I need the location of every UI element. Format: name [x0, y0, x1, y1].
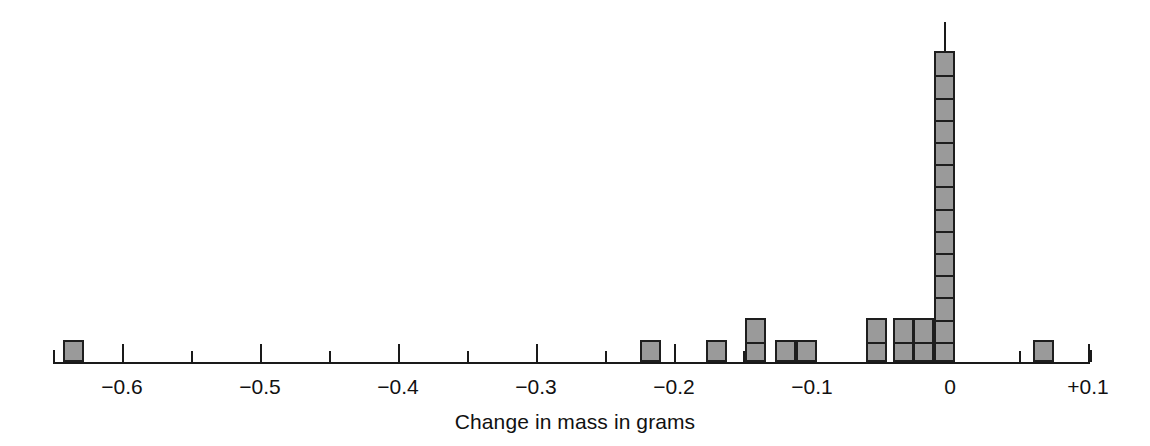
- x-tick-label: −0.6: [62, 376, 182, 397]
- histogram-bar-cell: [866, 342, 887, 364]
- histogram-bar-cell: [640, 342, 661, 364]
- x-axis-title: Change in mass in grams: [0, 410, 1150, 434]
- zero-guide-line: [944, 22, 946, 51]
- histogram-bar-cell: [934, 53, 955, 75]
- axis-end-cap-right: [1090, 350, 1092, 362]
- histogram-figure: −0.6−0.5−0.4−0.3−0.2−0.10+0.1 Change in …: [0, 0, 1150, 446]
- histogram-bar-cell: [934, 231, 955, 253]
- histogram-bar-cell: [934, 164, 955, 186]
- x-tick-major: [674, 344, 676, 362]
- x-tick-minor: [329, 351, 331, 362]
- histogram-bar: [796, 340, 817, 362]
- histogram-bar: [913, 318, 934, 362]
- histogram-bar-cell: [934, 120, 955, 142]
- x-tick-minor: [1019, 351, 1021, 362]
- histogram-bar-cell: [934, 320, 955, 342]
- histogram-bar-cell: [934, 342, 955, 364]
- histogram-bar: [893, 318, 914, 362]
- histogram-bar-cell: [893, 342, 914, 364]
- histogram-bar-cell: [745, 320, 766, 342]
- histogram-bar: [934, 51, 955, 362]
- histogram-bar: [63, 340, 84, 362]
- x-tick-label: −0.2: [614, 376, 734, 397]
- histogram-bar-cell: [775, 342, 796, 364]
- histogram-bar: [640, 340, 661, 362]
- x-tick-major: [536, 344, 538, 362]
- histogram-bar-cell: [706, 342, 727, 364]
- x-tick-label: 0: [890, 376, 1010, 397]
- histogram-bar-cell: [1033, 342, 1054, 364]
- histogram-bar-cell: [934, 142, 955, 164]
- histogram-bar-cell: [934, 186, 955, 208]
- x-tick-major: [1088, 344, 1090, 362]
- x-tick-label: +0.1: [1028, 376, 1148, 397]
- x-tick-label: −0.5: [200, 376, 320, 397]
- x-tick-label: −0.1: [752, 376, 872, 397]
- histogram-bar-cell: [796, 342, 817, 364]
- histogram-bar: [775, 340, 796, 362]
- histogram-bar-cell: [866, 320, 887, 342]
- x-tick-major: [122, 344, 124, 362]
- plot-area: −0.6−0.5−0.4−0.3−0.2−0.10+0.1: [0, 0, 1150, 446]
- x-tick-minor: [191, 351, 193, 362]
- histogram-bar: [706, 340, 727, 362]
- x-tick-major: [260, 344, 262, 362]
- histogram-bar: [745, 318, 766, 362]
- histogram-bar-cell: [893, 320, 914, 342]
- histogram-bar-cell: [913, 320, 934, 342]
- histogram-bar: [1033, 340, 1054, 362]
- x-tick-major: [398, 344, 400, 362]
- x-tick-minor: [53, 351, 55, 362]
- histogram-bar-cell: [934, 209, 955, 231]
- histogram-bar-cell: [934, 297, 955, 319]
- histogram-bar-cell: [934, 98, 955, 120]
- x-tick-label: −0.3: [476, 376, 596, 397]
- histogram-bar-cell: [934, 253, 955, 275]
- x-tick-minor: [467, 351, 469, 362]
- histogram-bar-cell: [934, 275, 955, 297]
- x-tick-label: −0.4: [338, 376, 458, 397]
- histogram-bar-cell: [63, 342, 84, 364]
- histogram-bar-cell: [745, 342, 766, 364]
- x-tick-minor: [605, 351, 607, 362]
- histogram-bar: [866, 318, 887, 362]
- histogram-bar-cell: [934, 75, 955, 97]
- histogram-bar-cell: [913, 342, 934, 364]
